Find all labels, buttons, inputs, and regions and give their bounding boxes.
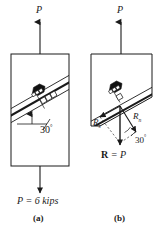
panel-b-shear-subscript: s bbox=[99, 123, 101, 129]
panel-a-angle-value: 30 bbox=[40, 124, 50, 135]
panel-b-normal-subscript: n bbox=[139, 117, 142, 123]
panel-b-caption: (b) bbox=[114, 214, 125, 223]
panel-b-resultant-label: R = P bbox=[101, 150, 126, 160]
panel-b-top-load-label: P bbox=[117, 5, 123, 15]
panel-a-angle-label: 30° bbox=[40, 124, 52, 135]
panel-b-free-body-outline bbox=[91, 54, 152, 126]
mechanics-figure: P 30° P = 6 kips (a) P Rs Rn 30° R = P (… bbox=[0, 0, 164, 230]
panel-b-degree-symbol: ° bbox=[144, 134, 146, 140]
panel-a-drawing bbox=[5, 22, 75, 193]
panel-b-shear-label: Rs bbox=[93, 118, 101, 129]
panel-b-angle-arc bbox=[125, 127, 131, 133]
panel-b-resultant-rest: = P bbox=[108, 149, 126, 160]
panel-a-degree-symbol: ° bbox=[50, 123, 52, 130]
panel-a-caption: (a) bbox=[33, 214, 44, 223]
panel-b-angle-label: 30° bbox=[135, 135, 146, 145]
panel-b-angle-value: 30 bbox=[135, 135, 144, 145]
panel-b-normal-label: Rn bbox=[133, 112, 141, 123]
panel-a-top-load-label: P bbox=[36, 5, 42, 15]
panel-a-bottom-load-label: P = 6 kips bbox=[17, 196, 58, 206]
